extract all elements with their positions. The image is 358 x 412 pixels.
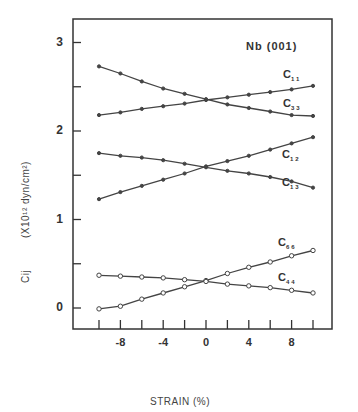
data-point-marker — [311, 291, 315, 295]
data-point-marker — [247, 265, 251, 269]
data-point-marker — [225, 282, 229, 286]
data-point-marker — [140, 107, 143, 110]
data-point-marker — [140, 297, 144, 301]
data-point-marker — [97, 65, 100, 68]
data-point-marker — [247, 284, 251, 288]
data-point-marker — [161, 291, 165, 295]
data-point-marker — [204, 279, 208, 283]
series-label-main: C — [283, 68, 291, 80]
data-point-marker — [183, 92, 186, 95]
series-label-main: C — [282, 148, 290, 160]
data-point-marker — [247, 172, 250, 175]
chart-title: Nb (001) — [246, 40, 297, 52]
series-label-c44: C44 — [278, 271, 297, 285]
data-point-marker — [162, 159, 165, 162]
data-point-marker — [247, 106, 250, 109]
data-point-marker — [97, 113, 100, 116]
data-point-marker — [226, 103, 229, 106]
series-label-main: C — [278, 236, 286, 248]
data-point-marker — [311, 136, 314, 139]
x-tick-label: -8 — [107, 336, 133, 348]
data-point-marker — [269, 148, 272, 151]
data-point-marker — [226, 169, 229, 172]
data-point-marker — [204, 98, 207, 101]
data-point-marker — [225, 271, 229, 275]
series-line — [99, 153, 313, 188]
data-point-marker — [268, 285, 272, 289]
y-tick-label: 0 — [49, 300, 63, 314]
data-point-marker — [183, 172, 186, 175]
data-point-marker — [289, 288, 293, 292]
x-tick-label: 4 — [236, 336, 262, 348]
data-point-marker — [140, 156, 143, 159]
data-point-marker — [97, 273, 101, 277]
data-point-marker — [204, 166, 207, 169]
series-label-c11: C11 — [283, 68, 301, 82]
x-axis-label: STRAIN (%) — [150, 396, 210, 407]
data-point-marker — [183, 162, 186, 165]
data-point-marker — [247, 154, 250, 157]
data-point-marker — [140, 275, 144, 279]
data-point-marker — [226, 96, 229, 99]
data-point-marker — [97, 152, 100, 155]
series-label-subscript: 44 — [286, 279, 297, 285]
x-tick-label: 0 — [193, 336, 219, 348]
y-axis-label-unit: (X10¹² dyn/cm²) — [20, 161, 31, 238]
x-tick-label: 8 — [279, 336, 305, 348]
data-point-marker — [182, 277, 186, 281]
data-point-marker — [161, 276, 165, 280]
data-point-marker — [118, 304, 122, 308]
data-point-marker — [269, 175, 272, 178]
data-point-marker — [119, 154, 122, 157]
data-point-marker — [311, 186, 314, 189]
data-point-marker — [162, 178, 165, 181]
series-label-c13: C13 — [282, 176, 301, 190]
data-point-marker — [226, 159, 229, 162]
data-point-marker — [119, 190, 122, 193]
data-point-marker — [162, 105, 165, 108]
series-label-subscript: 11 — [291, 76, 301, 82]
data-point-marker — [311, 248, 315, 252]
y-tick-label: 2 — [49, 123, 63, 137]
chart-canvas — [0, 0, 358, 412]
series-label-subscript: 13 — [290, 184, 301, 190]
data-point-marker — [311, 114, 314, 117]
data-point-marker — [290, 88, 293, 91]
data-point-marker — [268, 260, 272, 264]
series-label-c12: C12 — [282, 148, 301, 162]
y-tick-label: 1 — [49, 212, 63, 226]
data-point-marker — [290, 142, 293, 145]
series-label-main: C — [283, 97, 291, 109]
data-point-marker — [290, 113, 293, 116]
data-point-marker — [269, 90, 272, 93]
data-point-marker — [140, 80, 143, 83]
series-label-subscript: 66 — [286, 244, 297, 250]
data-point-marker — [183, 102, 186, 105]
series-label-subscript: 33 — [291, 105, 302, 111]
y-tick-label: 3 — [49, 35, 63, 49]
series-label-c66: C66 — [278, 236, 297, 250]
data-point-marker — [247, 93, 250, 96]
series-label-main: C — [282, 176, 290, 188]
data-point-marker — [140, 184, 143, 187]
data-point-marker — [97, 198, 100, 201]
data-point-marker — [118, 274, 122, 278]
data-point-marker — [97, 307, 101, 311]
data-point-marker — [162, 87, 165, 90]
series-label-main: C — [278, 271, 286, 283]
data-point-marker — [119, 72, 122, 75]
data-point-marker — [182, 285, 186, 289]
series-label-c33: C33 — [283, 97, 302, 111]
y-axis-label-symbol: Cij — [20, 270, 31, 283]
x-tick-label: -4 — [150, 336, 176, 348]
series-label-subscript: 12 — [290, 156, 301, 162]
data-point-marker — [119, 111, 122, 114]
data-point-marker — [289, 254, 293, 258]
data-point-marker — [311, 84, 314, 87]
axis-ticks — [73, 43, 313, 330]
data-point-marker — [269, 110, 272, 113]
